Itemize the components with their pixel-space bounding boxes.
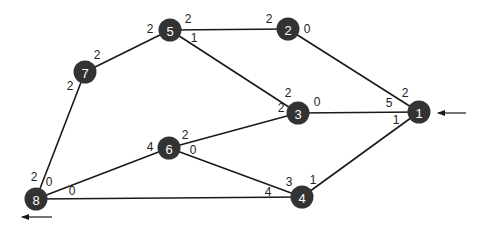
edge-weight-label: 0: [69, 184, 76, 198]
edge-weight-label: 3: [286, 175, 293, 189]
arrows-layer: [22, 113, 466, 217]
node-label: 7: [81, 66, 88, 81]
edge-4-1: [302, 112, 419, 197]
graph-diagram: 12345678 2212022220521420200431: [0, 0, 486, 233]
node-5: 5: [159, 19, 182, 42]
edge-weight-label: 1: [191, 31, 198, 45]
edge-weight-label: 0: [314, 95, 321, 109]
node-7: 7: [74, 61, 97, 84]
edge-weight-label: 4: [147, 140, 154, 154]
nodes-layer: 12345678: [25, 18, 431, 211]
edge-3-6: [169, 113, 298, 148]
edge-5-2: [170, 29, 288, 30]
edge-weight-label: 2: [185, 12, 192, 26]
edge-7-8: [36, 72, 85, 199]
edge-weight-label: 2: [402, 86, 409, 100]
edge-labels-layer: 2212022220521420200431: [31, 12, 409, 199]
node-label: 3: [294, 107, 301, 122]
node-1: 1: [408, 101, 431, 124]
edge-weight-label: 0: [190, 143, 197, 157]
node-label: 1: [415, 106, 422, 121]
edge-weight-label: 0: [46, 175, 53, 189]
edge-6-8: [36, 148, 169, 199]
edge-weight-label: 2: [285, 86, 292, 100]
edge-weight-label: 2: [31, 170, 38, 184]
edge-weight-label: 4: [265, 185, 272, 199]
edge-weight-label: 1: [393, 113, 400, 127]
node-label: 2: [284, 23, 291, 38]
edge-weight-label: 1: [310, 173, 317, 187]
edge-2-1: [288, 29, 419, 112]
node-4: 4: [291, 186, 314, 209]
node-2: 2: [277, 18, 300, 41]
edge-weight-label: 2: [94, 48, 101, 62]
edge-weight-label: 2: [67, 79, 74, 93]
edge-8-4: [36, 197, 302, 199]
node-6: 6: [158, 137, 181, 160]
edge-weight-label: 0: [304, 22, 311, 36]
edge-weight-label: 5: [386, 96, 393, 110]
node-label: 8: [32, 193, 39, 208]
edge-3-1: [298, 112, 419, 113]
edge-weight-label: 2: [266, 12, 273, 26]
node-label: 5: [166, 24, 173, 39]
edge-weight-label: 2: [147, 22, 154, 36]
edge-weight-label: 2: [278, 101, 285, 115]
node-label: 6: [165, 142, 172, 157]
edge-weight-label: 2: [182, 128, 189, 142]
node-8: 8: [25, 188, 48, 211]
node-3: 3: [287, 102, 310, 125]
node-label: 4: [298, 191, 305, 206]
